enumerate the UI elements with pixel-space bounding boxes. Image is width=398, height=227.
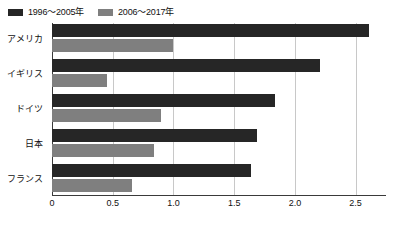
legend-label-series-a: 1996〜2005年 [28, 8, 84, 17]
bar-group-4 [52, 164, 386, 194]
category-label-0: アメリカ [0, 24, 48, 54]
legend-item-series-b: 2006〜2017年 [98, 8, 174, 17]
x-axis-line [52, 195, 386, 196]
bar-series-a-1 [52, 59, 320, 72]
category-label-1: イギリス [0, 59, 48, 89]
bar-series-b-1 [52, 74, 107, 87]
bar-chart: 1996〜2005年 2006〜2017年 アメリカ イギリス ドイツ 日本 フ… [0, 0, 398, 227]
x-tick-label-0: 0 [49, 198, 54, 208]
x-tick-label-3: 1.5 [228, 198, 241, 208]
x-tick-label-5: 2.5 [349, 198, 362, 208]
chart-legend: 1996〜2005年 2006〜2017年 [8, 5, 174, 19]
legend-swatch-series-b [98, 9, 113, 16]
legend-item-series-a: 1996〜2005年 [8, 8, 84, 17]
x-axis-tick-labels: 0 0.5 1.0 1.5 2.0 2.5 [0, 198, 398, 214]
plot-area [52, 23, 386, 195]
bar-group-2 [52, 94, 386, 124]
x-tick-label-4: 2.0 [289, 198, 302, 208]
legend-label-series-b: 2006〜2017年 [118, 8, 174, 17]
bar-group-1 [52, 59, 386, 89]
x-tick-label-1: 0.5 [106, 198, 119, 208]
bar-groups [52, 23, 386, 195]
category-label-3: 日本 [0, 129, 48, 159]
bar-series-b-4 [52, 179, 132, 192]
legend-swatch-series-a [8, 9, 23, 16]
bar-series-a-4 [52, 164, 251, 177]
bar-series-b-2 [52, 109, 161, 122]
bar-series-a-0 [52, 24, 369, 37]
bar-series-a-2 [52, 94, 275, 107]
bar-series-b-3 [52, 144, 154, 157]
category-label-2: ドイツ [0, 94, 48, 124]
bar-group-0 [52, 24, 386, 54]
category-label-4: フランス [0, 164, 48, 194]
bar-series-a-3 [52, 129, 257, 142]
bar-series-b-0 [52, 39, 173, 52]
bar-group-3 [52, 129, 386, 159]
x-tick-label-2: 1.0 [167, 198, 180, 208]
category-axis-labels: アメリカ イギリス ドイツ 日本 フランス [0, 23, 48, 195]
